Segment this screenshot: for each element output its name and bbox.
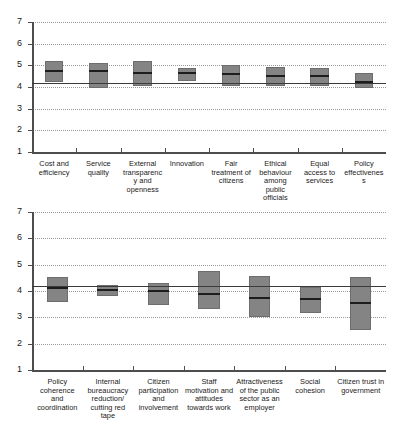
y-axis [32,22,34,152]
gridline [32,238,386,239]
y-axis [32,212,34,370]
box-range [198,271,219,308]
x-tick-mark [234,366,235,370]
gridline [32,109,386,110]
y-tick-label: 4 [6,82,22,91]
y-tick-label: 2 [6,339,22,348]
box-range [89,63,108,88]
y-tick-label: 6 [6,233,22,242]
x-tick-mark [76,148,77,152]
x-category-label: Citizen participation and involvement [134,378,183,444]
x-tick-mark [253,148,254,152]
median-line [148,290,169,292]
gridline [32,87,386,88]
x-axis [32,370,386,372]
box-range [300,287,321,313]
x-category-label: Policy effectiveness [343,160,385,208]
reference-line [32,286,386,287]
x-tick-mark [285,366,286,370]
x-category-label: Cost and efficiency [33,160,75,208]
chart-panel-bottom: 1234567Policy coherence and coordination… [0,210,398,448]
figure-boxplot-pair: 1234567Cost and efficiencyService qualit… [0,0,398,448]
y-tick-label: 2 [6,125,22,134]
x-category-label: Staff motivation and attitudes towards w… [185,378,234,444]
gridline [32,22,386,23]
y-tick-label: 3 [6,312,22,321]
median-line [198,293,219,295]
x-tick-mark [165,148,166,152]
x-tick-mark [298,148,299,152]
x-tick-mark [209,148,210,152]
x-category-label: Attractiveness of the public sector as a… [235,378,284,444]
median-line [97,289,118,291]
x-tick-mark [83,366,84,370]
x-tick-mark [133,366,134,370]
median-line [47,287,68,289]
x-axis [32,152,386,154]
x-category-label: Service quality [77,160,119,208]
median-line [310,75,329,77]
median-line [350,302,371,304]
x-tick-mark [335,366,336,370]
x-category-label: Citizen trust in government [336,378,385,444]
median-line [266,75,285,77]
median-line [45,70,64,72]
gridline [32,44,386,45]
x-category-label: Policy coherence and coordination [33,378,82,444]
gridline [32,130,386,131]
x-category-label: Innovation [166,160,208,208]
reference-line [32,83,386,84]
median-line [249,297,270,299]
median-line [300,298,321,300]
box-range [47,277,68,302]
y-tick-label: 1 [6,147,22,156]
chart-panel-top: 1234567Cost and efficiencyService qualit… [0,0,398,210]
median-line [355,81,374,83]
x-category-label: Fair treatment of citizens [210,160,252,208]
gridline [32,317,386,318]
y-tick-label: 3 [6,104,22,113]
x-category-label: Social cohesion [286,378,335,444]
y-tick-label: 5 [6,60,22,69]
x-category-label: Internal bureaucracy reduction/ cutting … [84,378,133,444]
median-line [133,72,152,74]
gridline [32,212,386,213]
median-line [89,70,108,72]
y-tick-label: 6 [6,39,22,48]
y-tick-label: 1 [6,365,22,374]
x-tick-mark [184,366,185,370]
x-tick-mark [342,148,343,152]
x-tick-mark [121,148,122,152]
median-line [178,72,197,74]
y-tick-label: 4 [6,286,22,295]
y-tick-label: 7 [6,17,22,26]
x-category-label: Equal access to services [299,160,341,208]
gridline [32,344,386,345]
median-line [222,73,241,75]
y-tick-label: 7 [6,207,22,216]
gridline [32,65,386,66]
x-category-label: Ethical behaviour among public officials [254,160,296,208]
x-category-label: External transparency and openness [122,160,164,208]
gridline [32,265,386,266]
y-tick-label: 5 [6,260,22,269]
